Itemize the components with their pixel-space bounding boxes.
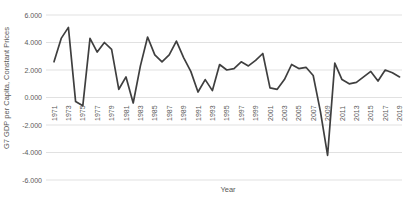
- x-tick-label: 1987: [166, 105, 173, 121]
- y-tick-label: -6.000: [22, 177, 42, 184]
- x-tick-label: 1995: [223, 105, 230, 121]
- x-tick-label: 2003: [281, 105, 288, 121]
- x-tick-label: 1989: [180, 105, 187, 121]
- x-tick-label: 2019: [396, 105, 403, 121]
- x-tick-label: 2013: [353, 105, 360, 121]
- x-tick-label: 1973: [65, 105, 72, 121]
- x-tick-label: 1993: [209, 105, 216, 121]
- x-tick-label: 1999: [252, 105, 259, 121]
- y-tick-label: 2.000: [24, 67, 42, 74]
- x-tick-label: 1981: [123, 105, 130, 121]
- x-tick-label: 1991: [195, 105, 202, 121]
- y-tick-label: 4.000: [24, 39, 42, 46]
- line-chart-canvas: 6.0004.0002.0000.000-2.000-4.000-6.000 1…: [0, 0, 412, 200]
- x-tick-label: 1985: [151, 105, 158, 121]
- x-tick-label: 2011: [339, 106, 346, 121]
- x-tick-label: 2001: [267, 105, 274, 121]
- x-tick-label: 1971: [51, 105, 58, 121]
- horizontal-gridlines: [46, 15, 402, 180]
- gdp-per-capita-series-line: [54, 27, 400, 155]
- x-tick-label: 1975: [79, 105, 86, 121]
- x-tick-label: 1979: [108, 105, 115, 121]
- x-tick-label: 1997: [238, 105, 245, 121]
- x-tick-label: 2017: [382, 105, 389, 121]
- y-axis-tick-labels: 6.0004.0002.0000.000-2.000-4.000-6.000: [22, 12, 42, 184]
- y-tick-label: 0.000: [24, 94, 42, 101]
- x-tick-label: 1983: [137, 105, 144, 121]
- x-tick-label: 2015: [367, 105, 374, 121]
- g7-gdp-line-chart: 6.0004.0002.0000.000-2.000-4.000-6.000 1…: [0, 0, 412, 200]
- x-tick-label: 1977: [94, 105, 101, 121]
- x-axis-title: Year: [220, 185, 236, 194]
- x-tick-label: 2005: [295, 105, 302, 121]
- y-tick-label: -2.000: [22, 122, 42, 129]
- x-tick-label: 2007: [310, 105, 317, 121]
- y-tick-label: 6.000: [24, 12, 42, 19]
- x-axis-tick-labels: 1971197319751977197919811983198519871989…: [51, 105, 404, 121]
- y-axis-title: G7 GDP per Capita, Constant Prices: [2, 27, 11, 149]
- y-tick-label: -4.000: [22, 149, 42, 156]
